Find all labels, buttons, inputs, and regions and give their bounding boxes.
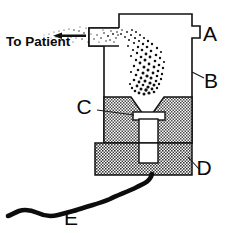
leader-line-b xyxy=(192,72,204,78)
label-d: D xyxy=(196,156,211,179)
supply-tubing xyxy=(8,174,152,216)
to-patient-label: To Patient xyxy=(6,34,71,49)
outlet-tube xyxy=(89,28,120,46)
nebulizer-diagram: To Patient A B C D E xyxy=(0,0,232,233)
label-b: B xyxy=(204,69,218,92)
nozzle-tube-in-base xyxy=(139,143,158,163)
label-a: A xyxy=(203,22,217,45)
base-block xyxy=(95,143,192,175)
label-c: C xyxy=(76,95,91,118)
label-e: E xyxy=(64,206,78,229)
supply-tubing-path xyxy=(8,174,152,216)
diagram-canvas: To Patient A B C D E xyxy=(0,0,232,233)
